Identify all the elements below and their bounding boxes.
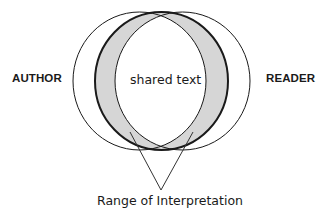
reader-label: READER <box>266 72 315 84</box>
venn-diagram <box>0 0 318 216</box>
shared-text-label: shared text <box>130 72 201 87</box>
author-label: AUTHOR <box>12 72 62 84</box>
range-of-interpretation-label: Range of Interpretation <box>97 193 243 208</box>
